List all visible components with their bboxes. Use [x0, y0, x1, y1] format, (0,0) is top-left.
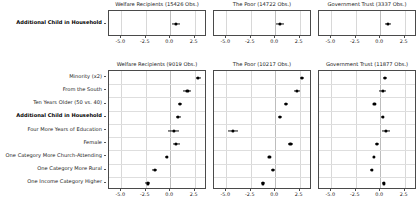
gridline-horizontal [319, 111, 415, 112]
x-axis-tick-label: -2.5 [140, 39, 150, 44]
estimate-point [186, 89, 189, 92]
x-axis-tick-label: -2.5 [140, 192, 150, 197]
estimate-point [289, 142, 292, 145]
x-axis-tick-label: 2.5 [400, 39, 408, 44]
plot-area [213, 10, 311, 36]
panel-title: Welfare Recipients (9019 Obs.) [108, 62, 206, 67]
gridline-vertical [226, 71, 227, 188]
row-label-tick [104, 89, 107, 90]
gridline-vertical [195, 11, 196, 35]
row-label-tick [104, 155, 107, 156]
estimate-point [381, 116, 384, 119]
gridline-vertical [405, 11, 406, 35]
x-axis-tick-label: -2.5 [245, 39, 255, 44]
plot-area [318, 10, 416, 36]
gridline-horizontal [319, 164, 415, 165]
panel-title: The Poor (10217 Obs.) [213, 62, 311, 67]
estimate-point [372, 155, 375, 158]
gridline-horizontal [319, 137, 415, 138]
gridline-horizontal [109, 111, 205, 112]
gridline-horizontal [319, 150, 415, 151]
x-axis-tick-label: 2.5 [295, 39, 303, 44]
gridline-vertical [300, 71, 301, 188]
x-axis-tick-label: 2.5 [400, 192, 408, 197]
estimate-point [197, 76, 200, 79]
estimate-point [261, 182, 264, 185]
row-label: Additional Child in Household [16, 20, 102, 25]
gridline-vertical [121, 71, 122, 188]
estimate-point [178, 102, 181, 105]
plot-area [108, 70, 206, 189]
gridline-vertical [146, 71, 147, 188]
estimate-point [284, 102, 287, 105]
row-label: One Income Category Higher [27, 180, 102, 185]
x-axis-tick-label: 0.0 [165, 192, 173, 197]
gridline-horizontal [319, 97, 415, 98]
estimate-point [172, 129, 175, 132]
row-label-tick [104, 103, 107, 104]
estimate-point [279, 22, 282, 25]
gridline-vertical [226, 11, 227, 35]
gridline-vertical [331, 11, 332, 35]
row-label: From the South [63, 87, 102, 92]
gridline-vertical [195, 71, 196, 188]
x-axis-tick-label: -5.0 [220, 192, 230, 197]
row-label: Minority (x2) [69, 74, 102, 79]
row-label-tick [104, 23, 107, 24]
gridline-horizontal [319, 177, 415, 178]
row-label-tick [104, 182, 107, 183]
row-label-tick [104, 76, 107, 77]
estimate-point [382, 182, 385, 185]
gridline-horizontal [214, 97, 310, 98]
x-axis-tick-label: 2.5 [295, 192, 303, 197]
gridline-vertical [170, 11, 171, 35]
x-axis-tick-label: -5.0 [325, 39, 335, 44]
row-label: One Category More Church-Attending [6, 153, 102, 158]
estimate-point [146, 182, 149, 185]
estimate-point [278, 116, 281, 119]
gridline-horizontal [109, 177, 205, 178]
row-label-tick [104, 129, 107, 130]
estimate-point [301, 76, 304, 79]
x-axis-tick-label: -5.0 [115, 192, 125, 197]
panel-title: The Poor (14722 Obs.) [213, 2, 311, 7]
gridline-vertical [251, 11, 252, 35]
x-axis-tick-label: -2.5 [350, 39, 360, 44]
estimate-point [381, 89, 384, 92]
gridline-horizontal [319, 124, 415, 125]
gridline-horizontal [109, 150, 205, 151]
estimate-point [175, 142, 178, 145]
plot-area [108, 10, 206, 36]
gridline-horizontal [214, 111, 310, 112]
panel-title: Government Trust (3337 Obs.) [318, 2, 416, 7]
estimate-point [271, 169, 274, 172]
gridline-horizontal [214, 164, 310, 165]
x-axis-tick-label: 0.0 [165, 39, 173, 44]
row-label: Additional Child in Household [16, 114, 102, 119]
estimate-point [268, 155, 271, 158]
x-axis-tick-label: -5.0 [325, 192, 335, 197]
row-label-tick [104, 169, 107, 170]
gridline-vertical [380, 11, 381, 35]
x-axis-tick-label: -2.5 [245, 192, 255, 197]
gridline-horizontal [109, 97, 205, 98]
estimate-point [176, 116, 179, 119]
x-axis-tick-label: 0.0 [375, 39, 383, 44]
gridline-horizontal [214, 124, 310, 125]
plot-area [213, 70, 311, 189]
panel-title: Government Trust (11877 Obs.) [318, 62, 416, 67]
gridline-vertical [121, 11, 122, 35]
x-axis-tick-label: -5.0 [220, 39, 230, 44]
gridline-vertical [331, 71, 332, 188]
estimate-point [386, 22, 389, 25]
x-axis-tick-label: -2.5 [350, 192, 360, 197]
estimate-point [296, 89, 299, 92]
gridline-vertical [146, 11, 147, 35]
gridline-vertical [275, 71, 276, 188]
row-label: One Category More Rural [37, 167, 102, 172]
row-label: Four More Years of Education [27, 127, 102, 132]
gridline-vertical [380, 71, 381, 188]
gridline-horizontal [319, 84, 415, 85]
x-axis-tick-label: 2.5 [190, 192, 198, 197]
gridline-horizontal [109, 164, 205, 165]
